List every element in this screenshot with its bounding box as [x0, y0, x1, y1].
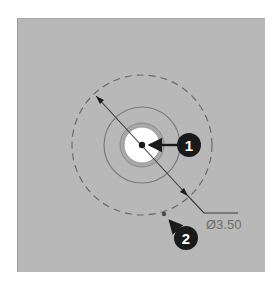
diameter-dimension-label[interactable]: Ø3.50 — [206, 217, 241, 232]
circle-point[interactable] — [162, 212, 166, 216]
dimension-leader-line — [188, 196, 238, 213]
callout-2-label: 2 — [182, 230, 190, 247]
center-point[interactable] — [139, 142, 145, 148]
callout-2-arrow — [170, 221, 178, 230]
callout-1-label: 1 — [185, 137, 193, 154]
sketch-diagram: Ø3.50 1 2 — [0, 0, 279, 285]
callout-2-badge: 2 — [174, 226, 198, 250]
callout-1-badge: 1 — [177, 133, 201, 157]
